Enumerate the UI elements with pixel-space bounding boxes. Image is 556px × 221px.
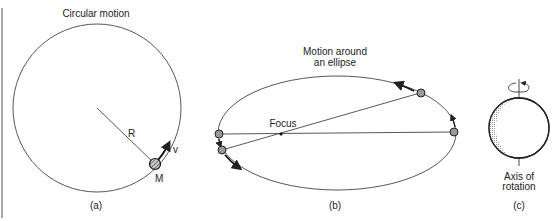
planet-marker-top-right — [417, 89, 425, 97]
panel-b-title-line2: an ellipse — [314, 57, 356, 68]
panel-a-title: Circular motion — [62, 8, 129, 19]
velocity-arrow-perihelion — [225, 155, 238, 167]
velocity-arrow-right — [452, 117, 455, 127]
panel-c-caption: (c) — [513, 200, 525, 211]
radius-line — [97, 108, 154, 163]
planet-marker-right — [450, 128, 458, 136]
velocity-arrow-aphelion-top — [398, 84, 414, 91]
panel-b-elliptical-motion — [215, 76, 458, 190]
focus-radius-line — [222, 93, 420, 150]
velocity-arrow-left-short — [219, 139, 220, 145]
orbital-motion-diagram — [0, 0, 556, 221]
mass-ball — [150, 159, 161, 170]
panel-a-circular-motion — [13, 24, 181, 192]
planet-marker-left — [215, 130, 223, 138]
panel-c-rotation — [489, 79, 549, 166]
major-axis-line — [219, 132, 454, 134]
panel-b-caption: (b) — [329, 200, 341, 211]
radius-label: R — [128, 128, 135, 139]
mass-label: M — [155, 173, 163, 184]
axis-label-line2: rotation — [502, 181, 535, 192]
focus-label: Focus — [269, 118, 296, 129]
planet-marker-lower-left — [218, 146, 226, 154]
panel-a-caption: (a) — [90, 200, 102, 211]
focus-point — [279, 132, 282, 135]
panel-b-title-line1: Motion around — [303, 46, 367, 57]
velocity-label: v — [173, 144, 178, 155]
